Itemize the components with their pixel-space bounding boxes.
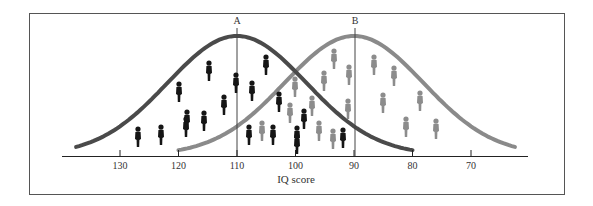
x-axis-ticks [120, 150, 471, 156]
x-tick-label: 70 [466, 160, 476, 171]
x-axis-tick-labels: 130120110100908070 [113, 160, 477, 171]
marker-label-b: B [352, 15, 359, 26]
x-tick-label: 100 [288, 160, 303, 171]
curve-b [179, 36, 515, 150]
x-tick-label: 130 [113, 160, 128, 171]
x-tick-label: 90 [349, 160, 359, 171]
x-axis-title: IQ score [277, 173, 315, 185]
iq-distribution-chart: A B [0, 0, 593, 206]
x-tick-label: 80 [408, 160, 418, 171]
x-tick-label: 110 [230, 160, 245, 171]
marker-label-a: A [233, 15, 241, 26]
curve-a [76, 36, 412, 150]
x-tick-label: 120 [171, 160, 186, 171]
